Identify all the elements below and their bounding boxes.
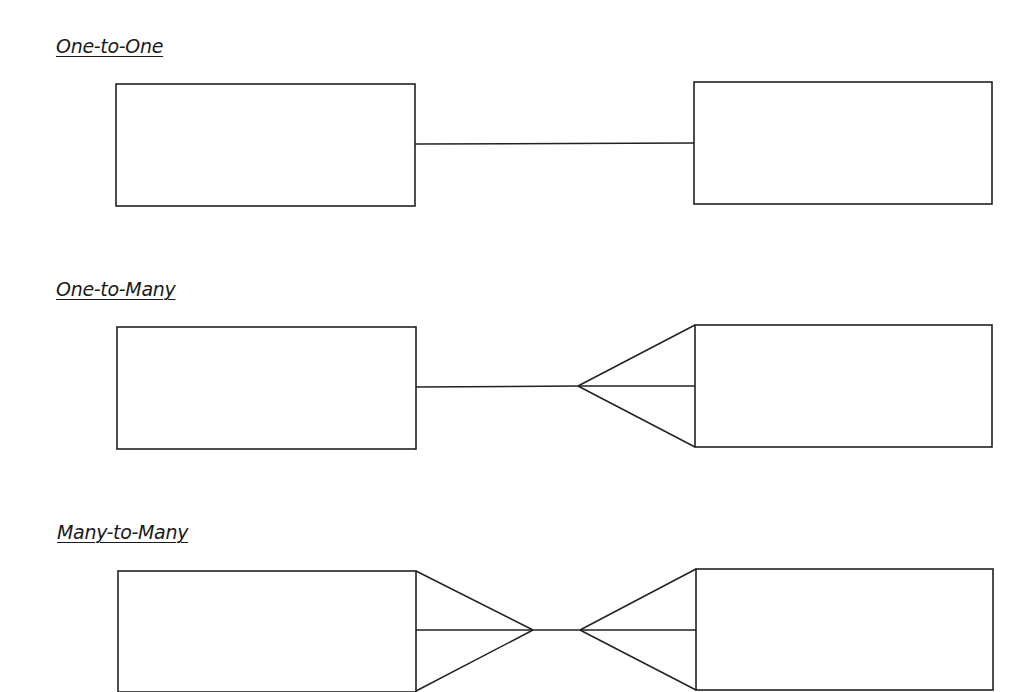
entity-box-left — [118, 571, 416, 692]
entity-box-right — [694, 82, 992, 204]
entity-box-left — [116, 84, 415, 206]
entity-box-right — [695, 325, 992, 447]
entity-box-right — [696, 569, 993, 690]
crows-foot-icon-right — [580, 569, 696, 690]
crows-foot-icon-left — [416, 571, 533, 691]
er-diagram — [0, 0, 1032, 692]
one-to-many-group — [117, 325, 992, 449]
relationship-line — [415, 143, 694, 144]
entity-box-left — [117, 327, 416, 449]
relationship-line — [416, 386, 578, 387]
one-to-one-group — [116, 82, 992, 206]
crows-foot-icon — [578, 325, 695, 447]
many-to-many-group — [118, 569, 993, 692]
